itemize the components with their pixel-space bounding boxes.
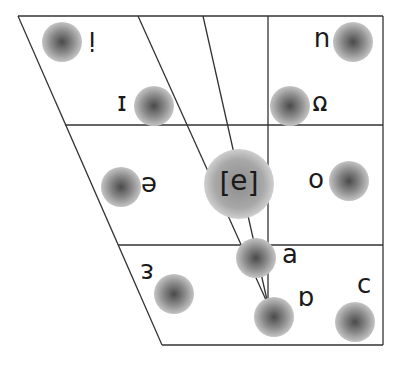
vowel-label-e: e xyxy=(141,171,157,201)
vowel-dot-script-a xyxy=(254,297,294,337)
vowel-dot-u xyxy=(333,22,373,62)
vowel-dot-open-e xyxy=(154,274,194,314)
vowel-label-o: o xyxy=(308,167,324,197)
chart-frame xyxy=(18,16,383,345)
vowel-label-u: u xyxy=(314,26,330,56)
vowel-dots xyxy=(42,22,375,342)
vowel-label-small-cap-i: ɪ xyxy=(117,90,127,120)
vowel-label-open-o: ɔ xyxy=(357,272,371,302)
vowel-dot-open-o xyxy=(335,302,375,342)
vowel-dot-upsilon xyxy=(270,86,310,126)
vowel-chart: iuɪʊe[ə]oɐɛɑɔ xyxy=(0,0,402,366)
vowel-label-open-e: ɛ xyxy=(140,258,154,288)
vowel-dot-o xyxy=(329,161,369,201)
vowel-dot-turned-a xyxy=(236,238,276,278)
vowel-label-script-a: ɑ xyxy=(298,285,315,315)
vowel-label-schwa: [ə] xyxy=(219,167,258,200)
vowel-label-upsilon: ʊ xyxy=(312,90,328,120)
vowel-label-i: i xyxy=(88,26,95,56)
left-edge-line xyxy=(18,16,162,345)
vowel-label-turned-a: ɐ xyxy=(282,242,298,272)
vowel-dot-i xyxy=(42,22,82,62)
vowel-dot-e xyxy=(101,167,141,207)
vowel-dot-small-cap-i xyxy=(134,86,174,126)
